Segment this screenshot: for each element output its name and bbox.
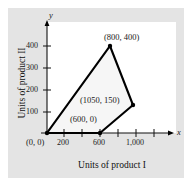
vertex-dot-1050-150 [131,103,135,107]
vertex-label-800-400: (800, 400) [104,33,139,42]
x-tick-label-200: 200 [57,139,69,147]
x-axis-arrow [168,131,174,136]
y-tick-label-200: 200 [26,86,38,94]
y-tick-label-400: 400 [26,42,38,50]
x-tick-label-600: 600 [93,139,105,147]
x-axis-title: Units of product I [47,160,177,170]
x-axis-variable-label: x [177,128,181,137]
vertex-dot-0-0 [45,131,49,135]
vertex-label-1050-150: (1050, 150) [80,96,120,105]
y-axis-arrow [45,20,50,26]
vertex-dot-800-400 [108,44,112,48]
y-axis-variable-label: y [49,11,53,20]
vertex-label-600-0: (600, 0) [70,115,97,124]
x-tick-label-1000: 1,000 [126,139,144,147]
y-tick-label-100: 100 [26,108,38,116]
y-axis-title: Units of product II [17,31,27,136]
vertex-dot-600-0 [98,131,102,135]
figure-screenshot: y x 400 300 200 100 200 600 1,000 (0, 0)… [0,0,191,186]
y-tick-label-300: 300 [26,64,38,72]
origin-label: (0, 0) [26,138,44,147]
